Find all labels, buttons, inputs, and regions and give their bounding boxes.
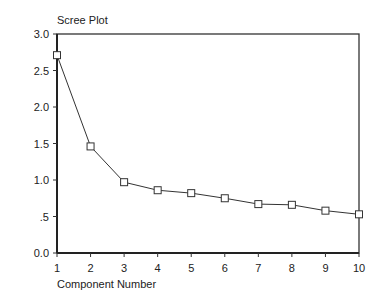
y-tick-label: 2.0 (34, 101, 49, 113)
x-tick-label: 9 (322, 262, 328, 274)
y-tick-label: .5 (40, 211, 49, 223)
y-tick-label: 1.0 (34, 174, 49, 186)
x-tick-label: 10 (353, 262, 365, 274)
x-tick-label: 1 (54, 262, 60, 274)
square-marker-icon (288, 201, 295, 208)
square-marker-icon (322, 207, 329, 214)
y-tick-label: 0.0 (34, 247, 49, 259)
square-marker-icon (154, 187, 161, 194)
square-marker-icon (255, 201, 262, 208)
y-tick-label: 3.0 (34, 28, 49, 40)
x-tick-label: 4 (155, 262, 161, 274)
x-tick-label: 5 (188, 262, 194, 274)
y-axis-ticks: 0.0.51.01.52.02.53.0 (34, 28, 57, 259)
eigenvalue-line (57, 55, 359, 214)
data-point-markers (54, 52, 363, 218)
square-marker-icon (188, 190, 195, 197)
x-tick-label: 8 (289, 262, 295, 274)
square-marker-icon (221, 195, 228, 202)
x-tick-label: 7 (255, 262, 261, 274)
plot-border (57, 34, 359, 253)
x-tick-label: 2 (87, 262, 93, 274)
x-tick-label: 3 (121, 262, 127, 274)
square-marker-icon (121, 179, 128, 186)
square-marker-icon (54, 52, 61, 59)
square-marker-icon (356, 211, 363, 218)
square-marker-icon (87, 143, 94, 150)
y-tick-label: 1.5 (34, 138, 49, 150)
y-tick-label: 2.5 (34, 65, 49, 77)
x-axis-ticks: 12345678910 (54, 253, 365, 274)
plot-frame (57, 34, 359, 253)
x-tick-label: 6 (222, 262, 228, 274)
scree-plot: 0.0.51.01.52.02.53.0 12345678910 (0, 0, 379, 302)
